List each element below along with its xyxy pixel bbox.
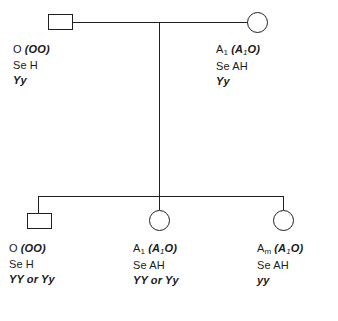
child-3-label: Am (A1O) Se AH yy xyxy=(257,241,303,289)
mother-genotype-close: O) xyxy=(248,43,260,55)
child-2-phenotype-line: A1 (A1O) xyxy=(133,241,179,258)
child-3-genotype-close: O) xyxy=(291,242,303,254)
mother-genotype-open: (A xyxy=(231,43,243,55)
father-square-symbol xyxy=(48,14,73,30)
child-2-label: A1 (A1O) Se AH YY or Yy xyxy=(133,241,179,289)
father-label: O (OO) Se H Yy xyxy=(13,42,50,89)
sibling-drop-line-1 xyxy=(38,196,39,214)
mother-circle-symbol xyxy=(247,12,268,33)
child-1-genotype: (OO) xyxy=(21,242,46,254)
child-3-phenotype-subscript: m xyxy=(264,247,271,256)
child-2-genotype-subscript: 1 xyxy=(160,247,165,256)
child-3-lewis-line: yy xyxy=(257,273,303,289)
child-1-lewis-line: YY or Yy xyxy=(9,272,55,288)
child-3-circle-symbol xyxy=(273,210,294,231)
child-1-square-symbol xyxy=(27,213,52,229)
descent-line xyxy=(159,22,160,197)
child-2-circle-symbol xyxy=(149,210,170,231)
father-lewis-line: Yy xyxy=(13,73,50,89)
mother-phenotype-subscript: 1 xyxy=(223,48,228,57)
mother-genotype-subscript: 1 xyxy=(243,48,248,57)
father-secretor-line: Se H xyxy=(13,58,50,74)
child-3-phenotype-line: Am (A1O) xyxy=(257,241,303,258)
mother-lewis-line: Yy xyxy=(216,74,260,90)
mother-label: A1 (A1O) Se AH Yy xyxy=(216,42,260,90)
sibship-line xyxy=(38,196,284,197)
sibling-drop-line-3 xyxy=(283,196,284,210)
child-3-secretor-line: Se AH xyxy=(257,258,303,274)
child-2-lewis-line: YY or Yy xyxy=(133,273,179,289)
child-1-phenotype: O xyxy=(9,242,18,254)
child-3-genotype-open: (A xyxy=(274,242,286,254)
mother-secretor-line: Se AH xyxy=(216,59,260,75)
child-1-secretor-line: Se H xyxy=(9,257,55,273)
child-2-genotype-close: O) xyxy=(165,242,177,254)
child-2-phenotype-subscript: 1 xyxy=(140,247,145,256)
mating-line xyxy=(72,22,248,23)
father-phenotype: O xyxy=(13,43,22,55)
father-phenotype-line: O (OO) xyxy=(13,42,50,58)
child-1-phenotype-line: O (OO) xyxy=(9,241,55,257)
sibling-drop-line-2 xyxy=(159,196,160,210)
child-2-genotype-open: (A xyxy=(148,242,160,254)
pedigree-diagram: O (OO) Se H Yy A1 (A1O) Se AH Yy O (OO) … xyxy=(0,0,338,321)
child-2-secretor-line: Se AH xyxy=(133,258,179,274)
child-3-genotype-subscript: 1 xyxy=(286,247,291,256)
father-genotype: (OO) xyxy=(25,43,50,55)
child-1-label: O (OO) Se H YY or Yy xyxy=(9,241,55,288)
mother-phenotype-line: A1 (A1O) xyxy=(216,42,260,59)
